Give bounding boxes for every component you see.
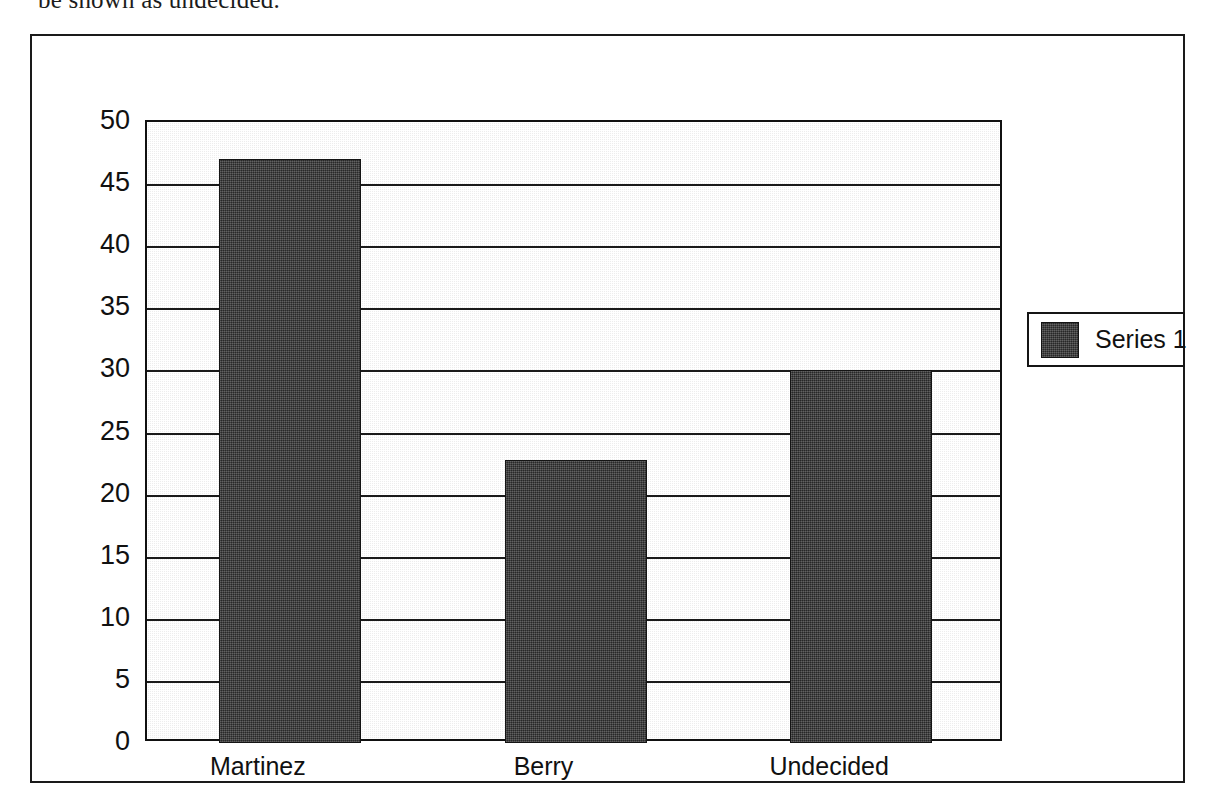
y-axis-tick-label: 0 [115,726,130,757]
y-axis-tick-label: 25 [100,415,130,446]
chart-frame: 05101520253035404550 MartinezBerryUndeci… [30,34,1185,783]
y-axis-tick-label: 5 [115,663,130,694]
bar [790,370,932,743]
legend-label: Series 1 [1095,325,1187,354]
y-axis-tick-label: 45 [100,167,130,198]
bar [505,460,647,743]
y-axis-tick-label: 40 [100,229,130,260]
legend: Series 1 [1027,312,1185,367]
x-axis-tick-label: Undecided [769,752,889,781]
y-axis-tick-label: 30 [100,353,130,384]
y-axis-tick-labels: 05101520253035404550 [62,120,130,741]
y-axis-tick-label: 10 [100,601,130,632]
y-axis-tick-label: 35 [100,291,130,322]
x-axis-tick-label: Berry [514,752,574,781]
bar [219,159,361,743]
plot-area [145,120,1002,741]
y-axis-tick-label: 50 [100,105,130,136]
y-axis-tick-label: 15 [100,539,130,570]
x-axis-tick-label: Martinez [210,752,306,781]
legend-swatch-icon [1041,322,1079,358]
clipped-caption-text: be shown as undecided. [38,0,280,14]
y-axis-tick-label: 20 [100,477,130,508]
